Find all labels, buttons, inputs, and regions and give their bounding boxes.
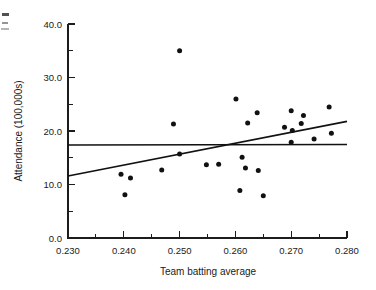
x-tick-label: 0.270	[279, 245, 303, 256]
x-tick-label: 0.260	[224, 245, 248, 256]
x-tick-label: 0.230	[56, 245, 80, 256]
data-point	[327, 104, 332, 109]
axis-frame	[68, 24, 347, 238]
y-tick-label: 40.0	[44, 19, 63, 30]
data-point	[171, 122, 176, 127]
y-tick-label: 0.0	[49, 233, 62, 244]
data-point	[261, 193, 266, 198]
data-point	[122, 192, 127, 197]
data-point	[204, 162, 209, 167]
fit-lines	[68, 121, 347, 176]
y-tick-label: 30.0	[44, 72, 63, 83]
data-point	[216, 162, 221, 167]
data-point	[289, 140, 294, 145]
regression-line	[68, 121, 347, 176]
y-tick-label: 10.0	[44, 179, 63, 190]
data-point	[299, 121, 304, 126]
x-tick-label: 0.250	[168, 245, 192, 256]
data-point	[282, 125, 287, 130]
data-point	[245, 120, 250, 125]
y-axis-title: Attendance (100,000s)	[13, 80, 24, 181]
x-axis-ticks	[68, 231, 347, 238]
data-point	[128, 176, 133, 181]
data-points	[119, 48, 334, 198]
data-point	[301, 113, 306, 118]
axes	[68, 24, 347, 238]
scatter-plot: 0.010.020.030.040.0 0.2300.2400.2500.260…	[0, 0, 376, 290]
data-point	[233, 96, 238, 101]
data-point	[312, 137, 317, 142]
chart-screenshot: 0.010.020.030.040.0 0.2300.2400.2500.260…	[0, 0, 376, 290]
data-point	[159, 168, 164, 173]
data-point	[119, 172, 124, 177]
y-axis-tick-labels: 0.010.020.030.040.0	[44, 19, 63, 244]
data-point	[177, 152, 182, 157]
y-tick-label: 20.0	[44, 126, 63, 137]
x-axis-title: Team batting average	[160, 266, 257, 277]
data-point	[290, 128, 295, 133]
y-axis-ticks	[68, 24, 75, 238]
data-point	[243, 165, 248, 170]
data-point	[329, 131, 334, 136]
x-tick-label: 0.240	[112, 245, 136, 256]
data-point	[256, 168, 261, 173]
data-point	[289, 108, 294, 113]
data-point	[255, 110, 260, 115]
x-axis-tick-labels: 0.2300.2400.2500.2600.2700.280	[56, 245, 359, 256]
data-point	[240, 155, 245, 160]
data-point	[177, 48, 182, 53]
mean-line	[68, 144, 347, 145]
data-point	[237, 188, 242, 193]
x-tick-label: 0.280	[335, 245, 359, 256]
